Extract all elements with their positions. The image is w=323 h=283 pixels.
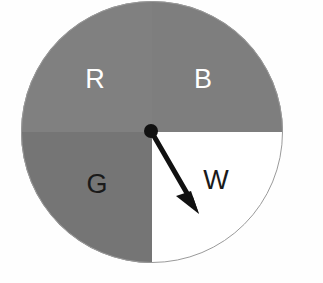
spinner-figure: R B G W <box>0 0 323 283</box>
sector-label-white: W <box>203 165 229 195</box>
sector-blue <box>152 1 283 132</box>
sector-label-blue: B <box>194 64 212 94</box>
sector-label-green: G <box>86 169 107 199</box>
spinner-diagram: R B G W <box>0 0 323 283</box>
pointer-pivot-dot <box>144 124 158 138</box>
sector-label-red: R <box>85 64 105 94</box>
sector-white <box>152 132 283 263</box>
